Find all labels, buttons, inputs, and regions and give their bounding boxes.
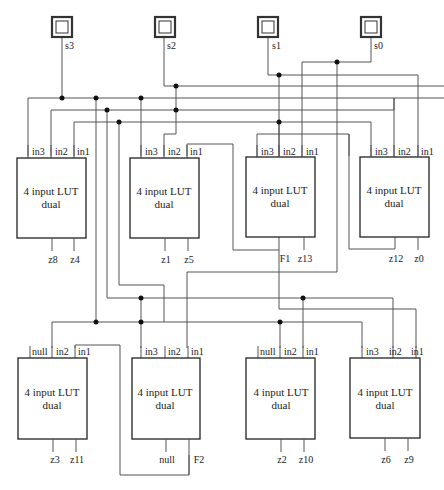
lut-circuit-diagram: s3 s2 s1 s0 in3 in2 in1 4 input LUT dual… [0, 0, 444, 490]
pin-label: z2 [277, 454, 286, 465]
pin-label: z0 [414, 253, 423, 264]
lut-title: 4 input LUT [358, 386, 413, 398]
lut-subtitle: dual [156, 399, 175, 411]
lut-block-2: in3 in2 in1 4 input LUT dual z1 z5 [130, 145, 203, 265]
pin-label: in2 [284, 346, 297, 357]
pin-label: in2 [168, 146, 181, 157]
lut-subtitle: dual [155, 198, 174, 210]
pin-label: F2 [194, 454, 205, 465]
pin-label: in3 [375, 146, 388, 157]
terminal-label: s0 [374, 40, 383, 51]
pin-label: in2 [398, 146, 411, 157]
pin-label: in3 [145, 146, 158, 157]
pin-label: z13 [298, 253, 312, 264]
pin-label: F1 [280, 253, 291, 264]
lut-title: 4 input LUT [137, 185, 192, 197]
pin-label: in2 [389, 346, 402, 357]
pin-label: in3 [32, 146, 45, 157]
lut-subtitle: dual [271, 197, 290, 209]
input-terminal-s0: s0 [361, 17, 383, 51]
lut-block-3: in3 in2 in1 4 input LUT dual F1 z13 [246, 145, 319, 264]
lut-block-1: in3 in2 in1 4 input LUT dual z8 z4 [17, 145, 90, 265]
lut-subtitle: dual [43, 399, 62, 411]
pin-label: in2 [55, 146, 68, 157]
pin-label: z11 [70, 454, 84, 465]
input-terminal-s3: s3 [52, 17, 74, 51]
input-terminal-s1: s1 [258, 17, 281, 51]
lut-block-6: in3 in2 in1 4 input LUT dual null F2 [132, 346, 204, 475]
terminal-label: s1 [272, 40, 281, 51]
pin-label: in1 [421, 146, 434, 157]
lut-subtitle: dual [376, 399, 395, 411]
pin-label: z8 [48, 254, 57, 265]
lut-subtitle: dual [272, 399, 291, 411]
pin-label: in2 [168, 346, 181, 357]
pin-label: in3 [261, 146, 274, 157]
pin-label: in1 [77, 146, 90, 157]
pin-label: z10 [299, 454, 313, 465]
terminal-label: s3 [65, 40, 74, 51]
lut-block-7: null in2 in1 4 input LUT dual z2 z10 [246, 346, 319, 465]
lut-block-4: in3 in2 in1 4 input LUT dual z12 z0 [360, 145, 434, 264]
pin-label: in1 [411, 346, 424, 357]
pin-label: in1 [306, 346, 319, 357]
lut-title: 4 input LUT [254, 386, 309, 398]
pin-label: in1 [306, 146, 319, 157]
lut-title: 4 input LUT [253, 184, 308, 196]
pin-label: in1 [191, 346, 204, 357]
pin-label: null [260, 346, 276, 357]
pin-label: in2 [283, 146, 296, 157]
pin-label: in1 [78, 346, 91, 357]
lut-block-8: in3 in2 in1 4 input LUT dual z6 z9 [350, 346, 424, 465]
pin-label: in2 [56, 346, 69, 357]
pin-label: z1 [161, 254, 170, 265]
input-terminal-s2: s2 [155, 17, 176, 51]
lut-title: 4 input LUT [25, 386, 80, 398]
lut-subtitle: dual [42, 198, 61, 210]
pin-label: null [159, 454, 175, 465]
pin-label: z9 [404, 454, 413, 465]
pin-label: null [32, 346, 48, 357]
pin-label: in3 [366, 346, 379, 357]
pin-label: z12 [389, 253, 403, 264]
lut-title: 4 input LUT [24, 185, 79, 197]
pin-label: z5 [184, 254, 193, 265]
lut-title: 4 input LUT [138, 386, 193, 398]
pin-label: in3 [145, 346, 158, 357]
pin-label: in1 [190, 146, 203, 157]
pin-label: z3 [50, 454, 59, 465]
pin-label: z6 [381, 454, 390, 465]
lut-block-5: null in2 in1 4 input LUT dual z3 z11 [18, 346, 91, 465]
terminal-label: s2 [167, 40, 176, 51]
lut-subtitle: dual [385, 197, 404, 209]
pin-label: z4 [70, 254, 79, 265]
lut-title: 4 input LUT [367, 184, 422, 196]
